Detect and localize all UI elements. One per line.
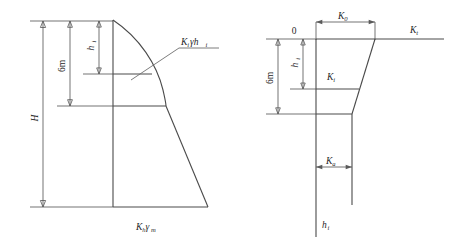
label-bottom-hi-sub: i: [327, 224, 329, 231]
dimension-H: H: [30, 21, 46, 207]
left-base-label-group: K h γ m: [135, 222, 156, 233]
label-layer-depth-hi-right-group: h i: [290, 58, 301, 68]
label-total-depth-H: H: [30, 113, 40, 122]
dimension-K0-arrow-right: [369, 20, 375, 24]
dimension-Ka-arrow-right: [346, 165, 352, 169]
label-Kt-group: K t: [409, 25, 418, 36]
figure-root: H 6m h i: [0, 0, 458, 244]
left-callout-label-group: K i γh i: [180, 37, 208, 48]
left-reference-lines: [30, 21, 113, 207]
label-K0-group: K 0: [337, 11, 348, 22]
right-slope-line: [352, 39, 375, 114]
dimension-6m-right: 6m: [265, 39, 280, 114]
label-upper-depth-6m: 6m: [57, 59, 67, 72]
label-upper-depth-6m-right: 6m: [265, 71, 275, 84]
label-Ki-group: K i: [326, 72, 335, 83]
dimension-hi-right: h i: [290, 39, 305, 89]
label-pressure-callout-sub-i: i: [187, 41, 189, 48]
right-panel: 6m h i 0 K 0: [265, 11, 444, 237]
label-layer-depth-hi-group: h i: [86, 41, 97, 51]
dimension-Ka-arrow-left: [316, 165, 322, 169]
label-layer-depth-hi-sub: i: [90, 41, 97, 43]
label-origin-zero: 0: [292, 26, 297, 36]
dimension-6m-left: 6m: [57, 21, 72, 106]
right-Kt-line-group: K t: [316, 25, 444, 39]
label-Kt-sub: t: [416, 29, 418, 36]
earth-pressure-diagram: H 6m h i: [0, 0, 458, 244]
label-layer-depth-hi-right: h: [290, 62, 300, 67]
dimension-K0-arrow-left: [316, 20, 322, 24]
label-Ka-sub: a: [332, 160, 336, 167]
dimension-Ka: K a: [316, 156, 352, 169]
label-base-sub-m: m: [151, 226, 156, 233]
label-layer-depth-hi-right-sub: i: [294, 58, 301, 60]
label-Ki-sub: i: [333, 76, 335, 83]
right-coefficient-outline: [316, 39, 375, 237]
label-bottom-hi-group: h i: [322, 220, 329, 231]
label-pressure-callout-gamma-h: γh: [190, 37, 199, 47]
left-pressure-curve: [113, 20, 166, 106]
dimension-hi-left: h i: [86, 21, 101, 74]
dimension-K0: K 0: [316, 11, 375, 40]
label-Ka-group: K a: [325, 156, 336, 167]
left-pressure-slope: [166, 106, 208, 207]
label-layer-depth-hi: h: [86, 45, 96, 50]
label-K0-sub: 0: [344, 15, 348, 22]
label-base-gamma: γ: [146, 222, 150, 232]
left-callout-leader: [131, 48, 179, 80]
label-bottom-hi: h: [322, 220, 327, 230]
label-pressure-callout-sub-i2: i: [206, 41, 208, 48]
left-panel: H 6m h i: [30, 20, 219, 233]
